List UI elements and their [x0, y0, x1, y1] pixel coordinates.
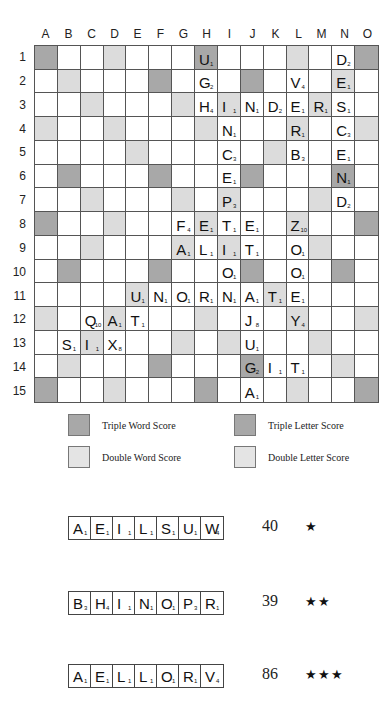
- rack-1: A1E1I1L1S1U1W4: [68, 516, 224, 540]
- board-square-e2: [126, 70, 149, 94]
- column-label: K: [264, 27, 287, 43]
- tile-letter: H: [199, 99, 210, 114]
- board-square-j11: A1: [241, 283, 264, 307]
- board-square-a15: [35, 378, 58, 402]
- tile-value: 3: [233, 156, 236, 162]
- tile-letter: A: [108, 313, 118, 328]
- board-square-f1: [149, 46, 172, 70]
- tile-letter: U: [245, 337, 256, 352]
- board-square-h5: [195, 141, 218, 165]
- tile-value: 1: [256, 227, 259, 233]
- board-square-j1: [241, 46, 264, 70]
- board-square-k3: D2: [264, 93, 287, 117]
- board-square-i6: E1: [218, 165, 241, 189]
- tile-value: 1: [256, 394, 259, 400]
- column-label: E: [126, 27, 149, 43]
- tile-value: 1: [172, 678, 175, 684]
- board-square-k6: [264, 165, 287, 189]
- board-square-c13: I1: [81, 331, 104, 355]
- tile-value: 1: [302, 132, 305, 138]
- board-square-o6: [355, 165, 378, 189]
- tile-value: 1: [141, 322, 144, 328]
- tile-value: 3: [194, 605, 197, 611]
- tile-letter: H: [95, 596, 106, 611]
- tile-letter: E: [245, 218, 255, 233]
- board-square-m6: [309, 165, 332, 189]
- row-labels: 123456789101112131415: [0, 45, 30, 403]
- board-square-k9: [264, 236, 287, 260]
- column-label: O: [356, 27, 379, 43]
- board-square-e4: [126, 117, 149, 141]
- tile-letter: B: [73, 596, 83, 611]
- board-square-h2: G2: [195, 70, 218, 94]
- board-square-c2: [81, 70, 104, 94]
- board-square-m2: [309, 70, 332, 94]
- tile-value: 3: [84, 605, 87, 611]
- double-word-swatch: [68, 446, 90, 468]
- column-label: C: [80, 27, 103, 43]
- tile-letter: T: [222, 218, 231, 233]
- tile-value: 1: [256, 108, 259, 114]
- board-square-o13: [355, 331, 378, 355]
- tile-value: 4: [302, 84, 305, 90]
- board-square-n13: [332, 331, 355, 355]
- rack-tile: E1: [91, 665, 113, 687]
- rack-tile: L1: [135, 517, 157, 539]
- board-square-m4: [309, 117, 332, 141]
- board-square-i3: I1: [218, 93, 241, 117]
- board-square-g2: [172, 70, 195, 94]
- tile-value: 1: [172, 530, 175, 536]
- tile-value: 1: [233, 298, 236, 304]
- tile-value: 1: [194, 530, 197, 536]
- board-square-e10: [126, 260, 149, 284]
- tile-value: 1: [84, 530, 87, 536]
- rack-2: B3H4I1N1O1P3R1: [68, 591, 224, 615]
- rack-tile: O1: [157, 592, 179, 614]
- board-square-h4: [195, 117, 218, 141]
- board-square-f9: [149, 236, 172, 260]
- legend-label: Triple Letter Score: [268, 420, 344, 431]
- board-square-b10: [58, 260, 81, 284]
- tile-value: 4: [210, 108, 213, 114]
- tile-letter: O: [161, 669, 173, 684]
- tile-letter: S: [161, 521, 171, 536]
- board-square-a7: [35, 188, 58, 212]
- board-square-m3: R1: [309, 93, 332, 117]
- board-square-m7: [309, 188, 332, 212]
- tile-value: 1: [128, 605, 131, 611]
- row-label: 5: [0, 140, 30, 164]
- board-square-b2: [58, 70, 81, 94]
- tile-letter: E: [336, 75, 346, 90]
- board-square-f5: [149, 141, 172, 165]
- tile-value: 1: [302, 108, 305, 114]
- rack-1-score: 40: [262, 517, 278, 535]
- board-square-o1: [355, 46, 378, 70]
- board-square-i12: [218, 307, 241, 331]
- tile-letter: Z: [291, 218, 300, 233]
- board-square-m9: [309, 236, 332, 260]
- tile-value: 4: [216, 678, 219, 684]
- board-square-g13: [172, 331, 195, 355]
- tile-letter: I: [85, 337, 89, 352]
- board-square-i9: I1: [218, 236, 241, 260]
- board-square-n7: D2: [332, 188, 355, 212]
- tile-value: 1: [233, 227, 236, 233]
- tile-letter: N: [336, 170, 347, 185]
- board-square-m15: [309, 378, 332, 402]
- tile-value: 4: [216, 530, 219, 536]
- tile-value: 1: [84, 678, 87, 684]
- board-square-e7: [126, 188, 149, 212]
- board-square-l5: B3: [287, 141, 310, 165]
- board-square-l10: O1: [287, 260, 310, 284]
- board-square-l7: [287, 188, 310, 212]
- board-square-b13: S1: [58, 331, 81, 355]
- rack-tile: U1: [179, 517, 201, 539]
- tile-letter: S: [62, 337, 72, 352]
- board-square-d13: X8: [104, 331, 127, 355]
- tile-letter: T: [130, 313, 139, 328]
- rack-tile: P3: [179, 592, 201, 614]
- board-square-c5: [81, 141, 104, 165]
- tile-value: 1: [347, 179, 350, 185]
- tile-letter: A: [73, 521, 83, 536]
- board-square-h10: [195, 260, 218, 284]
